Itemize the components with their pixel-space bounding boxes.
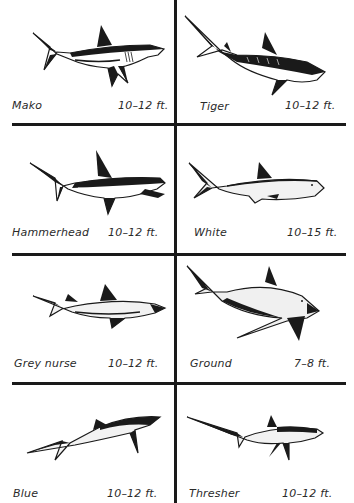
shark-card-blue: Blue 10–12 ft.	[0, 385, 174, 503]
shark-name: Grey nurse	[14, 357, 77, 370]
shark-name: Hammerhead	[12, 226, 89, 239]
shark-name: Blue	[13, 487, 38, 500]
shark-card-ground: Ground 7–8 ft.	[177, 256, 351, 382]
shark-card-tiger: Tiger 10–12 ft.	[177, 0, 351, 123]
shark-size: 10–12 ft.	[107, 487, 157, 500]
shark-size: 10–12 ft.	[118, 99, 168, 112]
shark-name: Mako	[12, 99, 42, 112]
shark-size: 10–12 ft.	[108, 226, 158, 239]
shark-size: 10–12 ft.	[108, 357, 158, 370]
shark-card-mako: Mako 10–12 ft.	[0, 0, 174, 123]
shark-card-grey-nurse: Grey nurse 10–12 ft.	[0, 256, 174, 382]
shark-name: White	[194, 226, 227, 239]
shark-card-hammerhead: Hammerhead 10–12 ft.	[0, 126, 174, 253]
shark-card-thresher: Thresher 10–12 ft.	[177, 385, 351, 503]
shark-size: 7–8 ft.	[294, 357, 330, 370]
thresher-shark-icon	[177, 385, 354, 503]
shark-size: 10–12 ft.	[282, 487, 332, 500]
shark-size: 10–15 ft.	[287, 226, 337, 239]
blue-shark-icon	[0, 385, 174, 503]
shark-name: Ground	[190, 357, 232, 370]
shark-name: Tiger	[200, 100, 229, 113]
shark-name: Thresher	[189, 487, 240, 500]
shark-card-white: White 10–15 ft.	[177, 126, 351, 253]
shark-size: 10–12 ft.	[285, 99, 335, 112]
